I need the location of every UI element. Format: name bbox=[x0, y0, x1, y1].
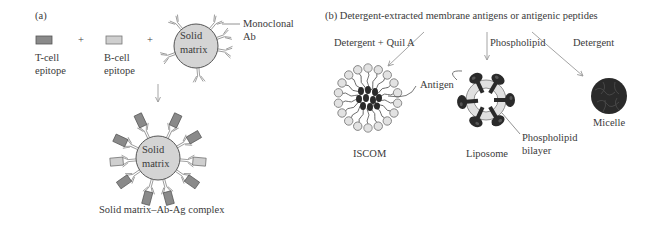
t-cell-label-line1: T-cell bbox=[35, 52, 59, 64]
plus-sign-2: + bbox=[147, 34, 153, 46]
plus-sign-1: + bbox=[78, 34, 84, 46]
bilayer-label-line2: bilayer bbox=[522, 145, 551, 157]
phospholipid-arrow-label: Phospholipid bbox=[490, 37, 545, 49]
b-cell-label-line1: B-cell bbox=[104, 52, 130, 64]
panel-b-title: (b) Detergent-extracted membrane antigen… bbox=[325, 10, 598, 22]
micelle-label: Micelle bbox=[593, 117, 625, 129]
matrix-label-line1: Solid bbox=[180, 30, 202, 42]
iscom-graphic bbox=[334, 64, 403, 132]
monoclonal-ab-label-line1: Monoclonal bbox=[243, 18, 294, 30]
panel-a-tag: (a) bbox=[35, 10, 47, 22]
t-cell-epitope-swatch bbox=[36, 36, 52, 44]
panel-a-graphics bbox=[36, 15, 240, 206]
detergent-arrow-label: Detergent bbox=[573, 37, 614, 49]
micelle-graphic bbox=[591, 78, 627, 114]
complex-matrix-line2: matrix bbox=[142, 158, 169, 170]
t-cell-label-line2: epitope bbox=[35, 65, 66, 77]
liposome-label: Liposome bbox=[466, 148, 508, 160]
liposome-graphic bbox=[457, 71, 515, 129]
matrix-label-line2: matrix bbox=[180, 44, 207, 56]
bilayer-label-line1: Phospholipid bbox=[522, 132, 577, 144]
iscom-label: ISCOM bbox=[353, 148, 386, 160]
complex-matrix-line1: Solid bbox=[142, 144, 164, 156]
complex-caption: Solid matrix–Ab-Ag complex bbox=[99, 204, 224, 216]
diagram-canvas bbox=[0, 0, 654, 233]
monoclonal-ab-label-line2: Ab bbox=[243, 31, 256, 43]
detergent-quil-a-label: Detergent + Quil A bbox=[334, 37, 415, 49]
b-cell-epitope-swatch bbox=[106, 36, 122, 44]
antigen-label: Antigen bbox=[420, 79, 454, 91]
b-cell-label-line2: epitope bbox=[104, 65, 135, 77]
